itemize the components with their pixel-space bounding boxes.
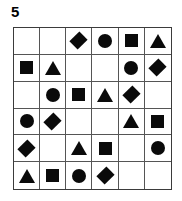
grid-cell-r1-c5[interactable]	[119, 28, 145, 55]
page-title: 5	[11, 3, 19, 21]
puzzle-grid-container	[13, 27, 172, 190]
triangle-icon	[19, 169, 35, 183]
grid-cell-r1-c4[interactable]	[92, 28, 118, 55]
grid-cell-r6-c5[interactable]	[119, 162, 145, 189]
circle-icon	[72, 169, 86, 183]
square-icon	[20, 61, 33, 74]
diamond-icon	[44, 112, 62, 130]
grid-cell-r6-c3[interactable]	[66, 162, 92, 189]
square-icon	[151, 115, 164, 128]
circle-icon	[151, 141, 165, 155]
puzzle-page: 5	[0, 0, 182, 201]
circle-icon	[98, 34, 112, 48]
diamond-icon	[122, 85, 140, 103]
grid-cell-r5-c6[interactable]	[145, 135, 171, 162]
grid-cell-r1-c6[interactable]	[145, 28, 171, 55]
grid-cell-r2-c4[interactable]	[92, 55, 118, 82]
triangle-icon	[45, 61, 61, 75]
diamond-icon	[149, 59, 167, 77]
grid-cell-r5-c2[interactable]	[40, 135, 66, 162]
grid-cell-r1-c2[interactable]	[40, 28, 66, 55]
grid-cell-r5-c3[interactable]	[66, 135, 92, 162]
grid-cell-r6-c1[interactable]	[14, 162, 40, 189]
grid-cell-r3-c1[interactable]	[14, 82, 40, 109]
grid-cell-r4-c3[interactable]	[66, 109, 92, 136]
grid-cell-r2-c2[interactable]	[40, 55, 66, 82]
triangle-icon	[71, 141, 87, 155]
circle-icon	[20, 114, 34, 128]
grid-cell-r3-c3[interactable]	[66, 82, 92, 109]
square-icon	[72, 88, 85, 101]
grid-cell-r2-c1[interactable]	[14, 55, 40, 82]
grid-cell-r6-c6[interactable]	[145, 162, 171, 189]
grid-cell-r6-c4[interactable]	[92, 162, 118, 189]
grid-cell-r1-c3[interactable]	[66, 28, 92, 55]
square-icon	[99, 142, 112, 155]
grid-cell-r2-c6[interactable]	[145, 55, 171, 82]
diamond-icon	[17, 139, 35, 157]
grid-cell-r5-c4[interactable]	[92, 135, 118, 162]
grid-cell-r4-c1[interactable]	[14, 109, 40, 136]
square-icon	[125, 34, 138, 47]
grid-cell-r3-c5[interactable]	[119, 82, 145, 109]
grid-cell-r5-c1[interactable]	[14, 135, 40, 162]
grid-cell-r2-c5[interactable]	[119, 55, 145, 82]
grid-cell-r6-c2[interactable]	[40, 162, 66, 189]
square-icon	[46, 169, 59, 182]
circle-icon	[124, 61, 138, 75]
diamond-icon	[70, 32, 88, 50]
triangle-icon	[123, 114, 139, 128]
grid-cell-r4-c4[interactable]	[92, 109, 118, 136]
grid-cell-r4-c2[interactable]	[40, 109, 66, 136]
circle-icon	[46, 88, 60, 102]
grid-cell-r1-c1[interactable]	[14, 28, 40, 55]
diamond-icon	[96, 166, 114, 184]
grid-cell-r3-c6[interactable]	[145, 82, 171, 109]
grid-cell-r4-c5[interactable]	[119, 109, 145, 136]
grid-cell-r3-c4[interactable]	[92, 82, 118, 109]
grid-cell-r3-c2[interactable]	[40, 82, 66, 109]
puzzle-grid	[14, 28, 171, 189]
grid-cell-r2-c3[interactable]	[66, 55, 92, 82]
grid-cell-r4-c6[interactable]	[145, 109, 171, 136]
triangle-icon	[150, 34, 166, 48]
grid-cell-r5-c5[interactable]	[119, 135, 145, 162]
triangle-icon	[97, 88, 113, 102]
